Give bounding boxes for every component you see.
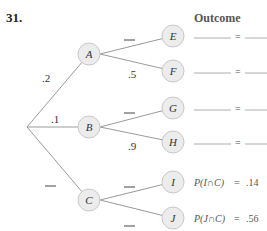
node-G: G bbox=[162, 97, 184, 119]
node-J: J bbox=[162, 207, 184, 229]
node-H: H bbox=[162, 131, 184, 153]
equals-sign: = bbox=[234, 213, 240, 224]
outcome-value: .56 bbox=[246, 213, 259, 224]
edge-C-J bbox=[100, 200, 162, 215]
outcome-expression: P(I∩C) bbox=[193, 177, 225, 189]
equals-sign: = bbox=[235, 66, 241, 77]
probability-tree-diagram: .2.1.5.9 ABCEFGHIJ ====P(I∩C)=.14P(J∩C)=… bbox=[0, 0, 267, 231]
outcome-H: = bbox=[194, 137, 267, 148]
edge-root-C bbox=[27, 127, 82, 192]
edge-prob-root-B: .1 bbox=[51, 113, 59, 125]
edge-prob-A-F: .5 bbox=[128, 68, 137, 80]
node-A: A bbox=[78, 43, 100, 65]
outcome-column: ====P(I∩C)=.14P(J∩C)=.56 bbox=[193, 31, 267, 225]
edge-prob-root-A: .2 bbox=[42, 72, 50, 84]
outcome-value: .14 bbox=[246, 177, 259, 188]
edge-B-H bbox=[100, 127, 162, 140]
edge-prob-B-H: .9 bbox=[128, 140, 137, 152]
node-label: F bbox=[169, 65, 177, 77]
node-label: H bbox=[168, 136, 178, 148]
node-F: F bbox=[162, 60, 184, 82]
outcome-expression: P(J∩C) bbox=[193, 213, 226, 225]
equals-sign: = bbox=[235, 103, 241, 114]
node-label: G bbox=[169, 102, 177, 114]
tree-nodes: ABCEFGHIJ bbox=[78, 25, 184, 229]
node-label: E bbox=[169, 30, 177, 42]
outcome-G: = bbox=[194, 103, 267, 114]
outcome-J: P(J∩C)=.56 bbox=[193, 213, 259, 225]
node-C: C bbox=[78, 189, 100, 211]
node-B: B bbox=[78, 116, 100, 138]
node-label: B bbox=[86, 121, 93, 133]
node-E: E bbox=[162, 25, 184, 47]
equals-sign: = bbox=[235, 137, 241, 148]
node-I: I bbox=[162, 171, 184, 193]
equals-sign: = bbox=[234, 177, 240, 188]
equals-sign: = bbox=[235, 31, 241, 42]
node-label: C bbox=[85, 194, 93, 206]
edge-A-F bbox=[100, 54, 162, 69]
outcome-E: = bbox=[194, 31, 267, 42]
edge-A-E bbox=[100, 39, 162, 54]
outcome-I: P(I∩C)=.14 bbox=[193, 177, 259, 189]
outcome-F: = bbox=[194, 66, 267, 77]
node-label: A bbox=[85, 48, 93, 60]
